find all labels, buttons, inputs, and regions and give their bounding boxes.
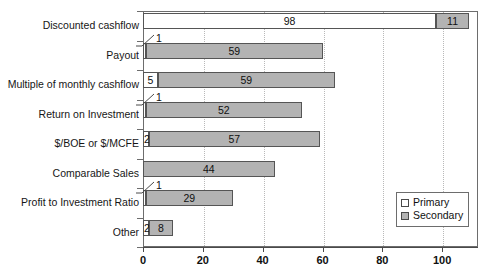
x-tick-label-80: 80 — [376, 254, 388, 266]
clipped-title-remnant — [0, 0, 491, 5]
x-tick-20 — [203, 247, 204, 252]
x-axis-line — [143, 247, 478, 248]
category-label-profit-to-investment-ratio: Profit to Investment Ratio — [0, 197, 139, 208]
bar-segment-secondary: 8 — [149, 220, 173, 236]
category-label-multiple-of-monthly-cashflow: Multiple of monthly cashflow — [0, 79, 139, 90]
x-tick-label-40: 40 — [256, 254, 268, 266]
white-square-swatch-icon — [401, 199, 409, 207]
x-tick-40 — [263, 247, 264, 252]
horizontal-stacked-bar-chart: Discounted cashflow Payout Multiple of m… — [0, 0, 491, 275]
gridline-80 — [383, 12, 384, 246]
legend-item-primary: Primary — [401, 196, 463, 209]
bar-callout-primary-value: 1 — [156, 92, 162, 103]
legend-label-primary: Primary — [413, 197, 449, 208]
gray-square-swatch-icon — [401, 212, 409, 220]
bar-callout-primary-value: 1 — [156, 180, 162, 191]
bar-segment-secondary: 59 — [158, 72, 335, 88]
x-tick-60 — [323, 247, 324, 252]
category-label-discounted-cashflow: Discounted cashflow — [0, 20, 139, 31]
x-tick-0 — [143, 247, 144, 252]
x-tick-label-60: 60 — [316, 254, 328, 266]
x-tick-label-0: 0 — [140, 254, 146, 266]
category-label-other: Other — [0, 227, 139, 238]
category-label-payout: Payout — [0, 50, 139, 61]
bar-segment-secondary: 11 — [436, 13, 469, 29]
legend-label-secondary: Secondary — [413, 210, 463, 221]
bar-callout-primary-value: 1 — [156, 33, 162, 44]
category-label-comparable-sales: Comparable Sales — [0, 168, 139, 179]
bar-segment-secondary: 52 — [146, 102, 302, 118]
x-tick-100 — [442, 247, 443, 252]
x-tick-label-100: 100 — [433, 254, 451, 266]
category-label-return-on-investment: Return on Investment — [0, 109, 139, 120]
bar-segment-primary: 98 — [143, 13, 436, 29]
bar-segment-primary: 5 — [143, 72, 158, 88]
gridline-60 — [324, 12, 325, 246]
bar-segment-secondary: 44 — [143, 161, 275, 177]
bar-segment-secondary: 57 — [149, 131, 320, 147]
legend-item-secondary: Secondary — [401, 209, 463, 222]
category-label-boe-mcfe: $/BOE or $/MCFE — [0, 138, 139, 149]
category-axis-labels: Discounted cashflow Payout Multiple of m… — [0, 11, 139, 247]
x-tick-label-20: 20 — [197, 254, 209, 266]
chart-legend: Primary Secondary — [396, 192, 469, 227]
x-tick-80 — [382, 247, 383, 252]
bar-segment-secondary: 59 — [146, 43, 323, 59]
